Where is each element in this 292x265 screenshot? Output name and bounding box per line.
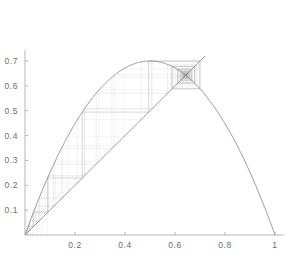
cobweb-path-extra-2 (30, 74, 187, 235)
y-tick-label: 0.4 (4, 131, 18, 141)
cobweb-plot-figure: 0.20.40.60.810.10.20.30.40.50.60.7 (0, 0, 292, 265)
x-tick-label: 0.8 (218, 240, 232, 250)
y-tick-label: 0.2 (4, 180, 18, 190)
identity-diagonal-line (25, 56, 205, 235)
x-tick-label: 1 (272, 240, 277, 250)
cobweb-path-extra-5 (41, 69, 192, 235)
y-tick-label: 0.3 (4, 155, 18, 165)
cobweb-path-extra-3 (33, 62, 200, 235)
x-tick-label: 0.2 (68, 240, 82, 250)
plot-canvas: 0.20.40.60.810.10.20.30.40.50.60.7 (0, 0, 292, 265)
x-tick-label: 0.4 (118, 240, 132, 250)
y-tick-label: 0.6 (4, 81, 18, 91)
diagonal-polyline (25, 56, 205, 235)
x-tick-label: 0.6 (168, 240, 182, 250)
y-tick-label: 0.5 (4, 106, 18, 116)
y-tick-label: 0.7 (4, 56, 18, 66)
axes (25, 50, 284, 235)
y-tick-label: 0.1 (4, 205, 18, 215)
